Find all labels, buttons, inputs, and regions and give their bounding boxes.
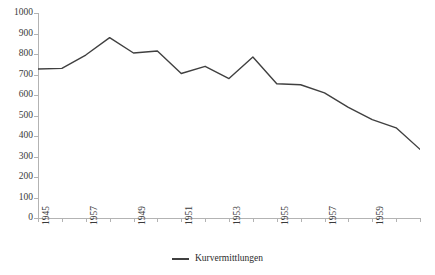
legend-entry-kurvermittlungen: Kurvermittlungen [172,254,263,264]
y-axis-tick-label: 500 [1,111,33,121]
x-axis-tick [181,218,182,222]
x-axis-tick [134,218,135,222]
x-axis-tick [348,218,349,222]
x-axis-tick [396,218,397,222]
y-axis-tick-label: 100 [1,193,33,203]
x-axis-tick [420,218,421,222]
x-axis-tick [62,218,63,222]
y-axis-tick-label: 1000 [1,8,33,18]
y-axis-tick-label: 200 [1,172,33,182]
x-axis-tick [301,218,302,222]
y-axis-tick-label: 400 [1,131,33,141]
x-axis-tick [325,218,326,222]
legend-line-swatch-icon [172,258,189,260]
series-line-kurvermittlungen [38,13,420,218]
x-axis-tick [372,218,373,222]
legend-label: Kurvermittlungen [195,254,263,264]
x-axis-tick [110,218,111,222]
x-axis-tick [277,218,278,222]
y-axis-tick-label: 600 [1,90,33,100]
x-axis-tick [157,218,158,222]
y-axis-tick-label: 800 [1,49,33,59]
x-axis-tick [253,218,254,222]
x-axis-tick [86,218,87,222]
x-axis-tick [229,218,230,222]
plot-area [38,13,420,218]
y-axis-tick-label: 900 [1,29,33,39]
y-axis-tick-label: 0 [1,213,33,223]
x-axis-tick [38,218,39,222]
x-axis-tick [205,218,206,222]
chart-figure: 10009008007006005004003002001000 1945195… [0,0,435,275]
y-axis-tick-label: 300 [1,152,33,162]
y-axis-tick-label: 700 [1,70,33,80]
y-axis-labels: 10009008007006005004003002001000 [0,0,33,275]
chart-legend: Kurvermittlungen [0,254,435,264]
